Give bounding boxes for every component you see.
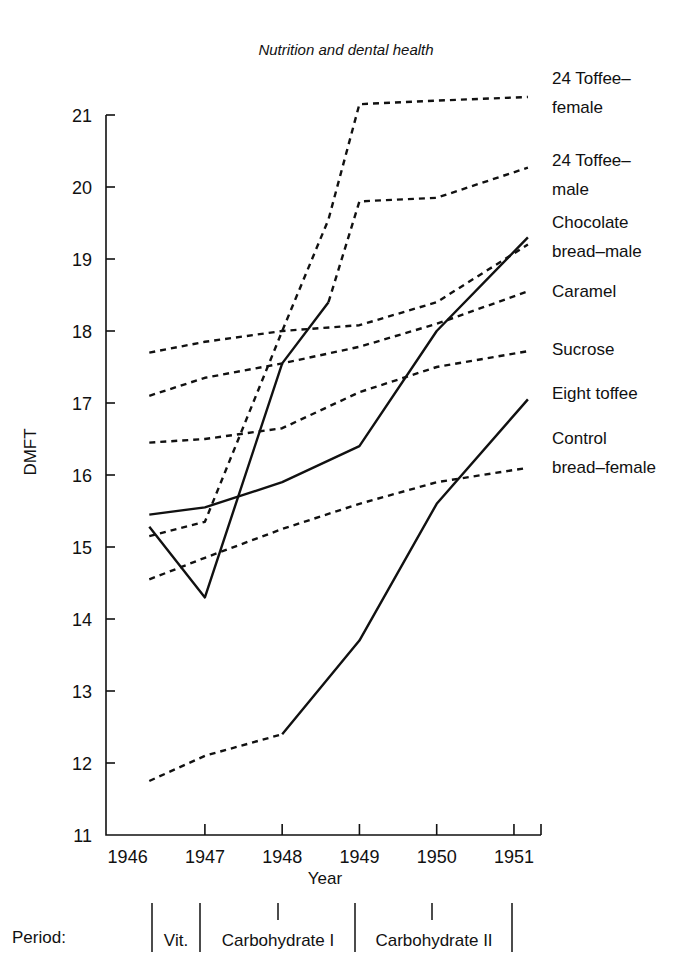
series-line-5 bbox=[282, 399, 528, 734]
period-label: Period: bbox=[12, 928, 66, 947]
x-axis-label: Year bbox=[308, 869, 343, 888]
y-tick-label: 14 bbox=[72, 610, 92, 630]
nutrition-dental-health-line-chart: Nutrition and dental health 111213141516… bbox=[0, 0, 692, 961]
x-tick-label: 1950 bbox=[417, 847, 457, 867]
series-line-3 bbox=[149, 291, 528, 395]
y-tick-label: 16 bbox=[72, 466, 92, 486]
x-tick-labels: 194619471948194919501951 bbox=[108, 847, 534, 867]
x-tick-marks bbox=[205, 824, 541, 835]
series-label-4: Sucrose bbox=[552, 340, 614, 359]
y-tick-label: 20 bbox=[72, 178, 92, 198]
y-tick-label: 15 bbox=[72, 538, 92, 558]
series-label-2: Chocolate bbox=[552, 213, 629, 232]
chart-title: Nutrition and dental health bbox=[258, 41, 433, 58]
series-end-labels: 24 Toffee–female24 Toffee–maleChocolateb… bbox=[552, 69, 656, 477]
y-tick-marks bbox=[106, 115, 115, 763]
x-tick-label: 1946 bbox=[108, 847, 148, 867]
series-line-8 bbox=[149, 734, 282, 781]
chart-figure: Nutrition and dental health 111213141516… bbox=[0, 0, 692, 961]
y-tick-label: 13 bbox=[72, 682, 92, 702]
series-line-6 bbox=[149, 468, 528, 580]
series-line-1-dashed bbox=[329, 168, 528, 303]
series-label-3: Caramel bbox=[552, 282, 616, 301]
series-label-0: 24 Toffee– bbox=[552, 69, 631, 88]
period-segment-2: Carbohydrate II bbox=[375, 931, 492, 950]
series-line-2 bbox=[149, 237, 528, 514]
series-label-6: bread–female bbox=[552, 458, 656, 477]
y-tick-labels: 1112131415161718192021 bbox=[72, 106, 92, 846]
series-label-1: male bbox=[552, 180, 589, 199]
series-lines bbox=[149, 97, 528, 781]
x-tick-label: 1947 bbox=[185, 847, 225, 867]
series-label-6: Control bbox=[552, 429, 607, 448]
series-line-4 bbox=[149, 351, 528, 442]
series-label-0: female bbox=[552, 98, 603, 117]
period-segment-labels: Vit.Carbohydrate ICarbohydrate II bbox=[164, 931, 493, 950]
x-tick-label: 1948 bbox=[262, 847, 302, 867]
period-scale: Period: Vit.Carbohydrate ICarbohydrate I… bbox=[12, 903, 512, 952]
series-line-0 bbox=[149, 97, 528, 536]
y-tick-label: 21 bbox=[72, 106, 92, 126]
series-line-7 bbox=[149, 245, 528, 353]
series-label-2: bread–male bbox=[552, 242, 642, 261]
x-tick-label: 1951 bbox=[494, 847, 534, 867]
x-tick-label: 1949 bbox=[339, 847, 379, 867]
y-tick-label: 17 bbox=[72, 394, 92, 414]
y-tick-label: 11 bbox=[73, 826, 92, 846]
y-axis-label: DMFT bbox=[21, 428, 40, 475]
series-label-5: Eight toffee bbox=[552, 384, 638, 403]
y-tick-label: 19 bbox=[72, 250, 92, 270]
y-tick-label: 12 bbox=[72, 754, 92, 774]
period-segment-1: Carbohydrate I bbox=[222, 931, 334, 950]
period-segment-0: Vit. bbox=[164, 931, 188, 950]
series-label-1: 24 Toffee– bbox=[552, 151, 631, 170]
y-tick-label: 18 bbox=[72, 322, 92, 342]
